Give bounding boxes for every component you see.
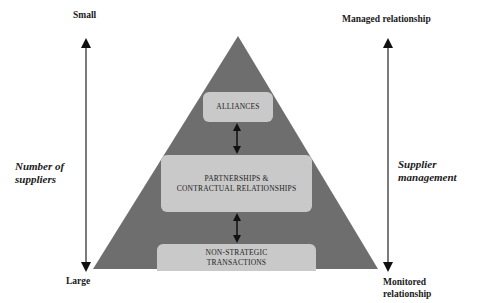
left-axis-title-line2: suppliers (15, 173, 56, 185)
level-alliances-label: ALLIANCES (216, 102, 259, 112)
left-axis-top-label: Small (73, 10, 96, 20)
right-axis-bottom-line1: Monitored (383, 277, 426, 287)
left-arrow-head-up (81, 38, 91, 48)
level-alliances: ALLIANCES (203, 92, 273, 122)
right-axis-title-line2: management (398, 171, 457, 183)
left-axis-title: Number of suppliers (15, 160, 64, 186)
right-axis-title-line1: Supplier (398, 158, 437, 170)
right-axis-title: Supplier management (398, 158, 457, 184)
left-axis-title-line1: Number of (15, 160, 64, 172)
left-arrow-head-down (81, 262, 91, 272)
pyramid-triangle (93, 36, 378, 269)
level-non-strategic-line1: NON-STRATEGIC (206, 248, 268, 258)
level-partnerships: PARTNERSHIPS & CONTRACTUAL RELATIONSHIPS (161, 155, 312, 212)
right-axis-bottom-line2: relationship (383, 289, 431, 299)
right-axis-bottom-label: Monitored relationship (383, 276, 431, 300)
level-partnerships-line2: CONTRACTUAL RELATIONSHIPS (177, 184, 297, 194)
level-non-strategic-line2: TRANSACTIONS (207, 258, 267, 268)
right-arrow-head-up (383, 38, 393, 48)
level-partnerships-line1: PARTNERSHIPS & (205, 174, 269, 184)
right-arrow-head-down (383, 262, 393, 272)
level-non-strategic: NON-STRATEGIC TRANSACTIONS (157, 244, 316, 271)
left-axis-bottom-label: Large (66, 276, 90, 286)
right-axis-top-label: Managed relationship (342, 14, 431, 24)
